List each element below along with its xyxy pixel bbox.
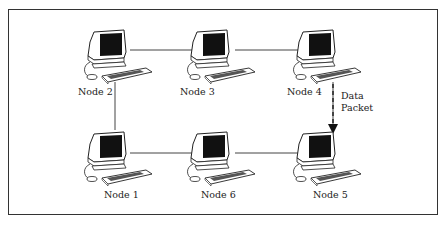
computer-icon-node-4 xyxy=(294,30,362,84)
packet-label-line1: Data xyxy=(341,90,364,101)
computer-icon-node-2 xyxy=(85,30,153,84)
node-label: Node 5 xyxy=(313,189,348,200)
computer-icon-node-5 xyxy=(294,132,362,186)
node-label: Node 3 xyxy=(180,86,215,97)
node-label: Node 1 xyxy=(104,189,139,200)
node-label: Node 6 xyxy=(201,189,236,200)
packet-label-line2: Packet xyxy=(341,102,373,113)
node-label: Node 4 xyxy=(287,86,322,97)
computer-icon-node-1 xyxy=(85,132,153,186)
node-label: Node 2 xyxy=(78,86,113,97)
computer-icon-node-3 xyxy=(188,30,256,84)
computer-icon-node-6 xyxy=(188,132,256,186)
